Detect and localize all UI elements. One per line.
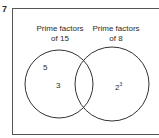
left-element-5: 5 <box>43 63 47 72</box>
right-set-title: Prime factors of 8 <box>86 24 146 44</box>
right-circle <box>75 47 149 121</box>
right-element: 23 <box>115 81 122 92</box>
venn-circles <box>0 0 159 138</box>
left-element-3: 3 <box>56 81 60 90</box>
left-set-title: Prime factors of 15 <box>30 24 90 44</box>
